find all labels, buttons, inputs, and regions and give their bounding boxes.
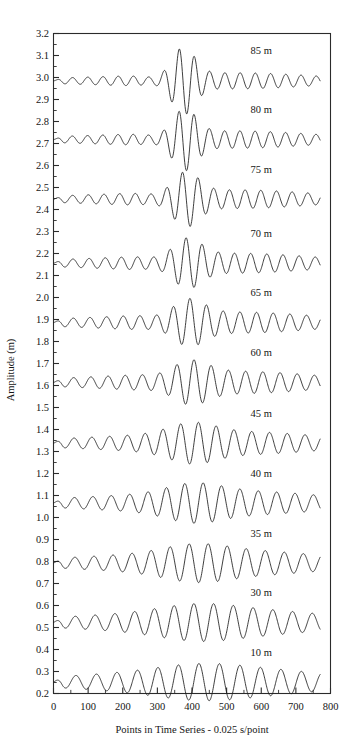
seismogram-chart: 0.20.30.40.50.60.70.80.91.01.11.21.31.41… [0,0,357,754]
y-tick-label: 2.3 [36,226,49,237]
waveform-trace [54,483,321,523]
y-tick-label: 1.8 [36,336,49,347]
trace-depth-label: 10 m [251,647,272,658]
trace-depth-label: 45 m [251,408,272,419]
x-tick-label: 700 [288,701,304,712]
y-axis-ticks [54,34,60,694]
y-tick-label: 3.2 [36,28,49,39]
x-tick-label: 400 [184,701,200,712]
y-tick-label: 1.5 [36,402,49,413]
x-tick-label: 500 [219,701,235,712]
trace-depth-labels: 85 m80 m75 m70 m65 m60 m45 m40 m35 m30 m… [251,45,272,657]
waveform-traces [54,49,321,701]
y-tick-label: 0.2 [36,688,49,699]
x-tick-label: 300 [150,701,166,712]
y-tick-label: 2.9 [36,94,49,105]
waveform-trace [54,422,321,464]
trace-depth-label: 60 m [251,347,272,358]
trace-depth-label: 70 m [251,228,272,239]
x-tick-label: 800 [323,701,339,712]
y-tick-label: 1.9 [36,314,49,325]
y-tick-label: 1.6 [36,380,49,391]
trace-depth-label: 75 m [251,164,272,175]
y-axis-tick-labels: 0.20.30.40.50.60.70.80.91.01.11.21.31.41… [36,28,50,699]
waveform-trace [54,604,321,642]
y-tick-label: 2.2 [36,248,49,259]
y-axis-title: Amplitude (m) [5,338,17,401]
y-tick-label: 1.7 [36,358,49,369]
x-axis-tick-labels: 0100200300400500600700800 [51,701,339,712]
y-tick-label: 0.5 [36,622,49,633]
y-tick-label: 2.4 [36,204,50,215]
trace-depth-label: 85 m [251,45,272,56]
y-tick-label: 1.3 [36,446,49,457]
x-axis-title: Points in Time Series - 0.025 s/point [115,724,268,735]
y-tick-label: 2.7 [36,138,49,149]
waveform-trace [54,298,321,344]
x-tick-label: 0 [51,701,56,712]
y-tick-label: 2.0 [36,292,49,303]
y-tick-label: 1.2 [36,468,49,479]
trace-depth-label: 40 m [251,468,272,479]
x-tick-label: 600 [253,701,269,712]
waveform-trace [54,111,321,170]
trace-depth-label: 35 m [251,528,272,539]
waveform-trace [54,664,321,701]
waveform-figure: 0.20.30.40.50.60.70.80.91.01.11.21.31.41… [0,0,357,754]
y-tick-label: 0.9 [36,534,49,545]
y-tick-label: 2.6 [36,160,49,171]
y-tick-label: 2.8 [36,116,49,127]
y-tick-label: 0.3 [36,666,49,677]
y-tick-label: 1.4 [36,424,50,435]
y-tick-label: 0.7 [36,578,49,589]
y-tick-label: 2.5 [36,182,49,193]
trace-depth-label: 30 m [251,587,272,598]
y-tick-label: 3.1 [36,50,49,61]
y-tick-label: 0.6 [36,600,49,611]
waveform-trace [54,49,321,114]
x-tick-label: 100 [80,701,96,712]
waveform-trace [54,172,321,226]
waveform-trace [54,238,321,288]
y-tick-label: 0.8 [36,556,49,567]
y-tick-label: 0.4 [36,644,50,655]
trace-depth-label: 80 m [251,104,272,115]
y-tick-label: 1.1 [36,490,49,501]
y-tick-label: 2.1 [36,270,49,281]
y-tick-label: 3.0 [36,72,49,83]
trace-depth-label: 65 m [251,287,272,298]
waveform-trace [54,544,321,583]
waveform-trace [54,360,321,404]
x-tick-label: 200 [115,701,131,712]
y-tick-label: 1.0 [36,512,49,523]
